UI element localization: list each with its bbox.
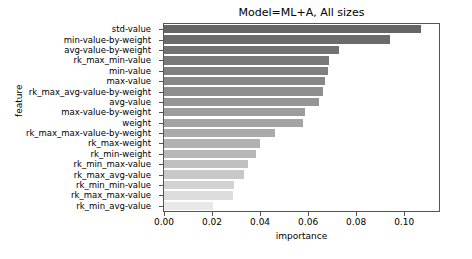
bar[interactable] xyxy=(164,46,339,54)
bar-row xyxy=(164,35,439,43)
y-tick-mark xyxy=(159,29,163,30)
bar[interactable] xyxy=(164,119,303,127)
bar-row xyxy=(164,56,439,64)
bar-row xyxy=(164,67,439,75)
bar-row xyxy=(164,139,439,147)
bar-row xyxy=(164,87,439,95)
y-tick-label: max-value xyxy=(106,76,151,86)
bar[interactable] xyxy=(164,25,421,33)
bar-row xyxy=(164,181,439,189)
y-tick-label: rk_max_max-value xyxy=(71,190,151,200)
x-tick-label: 0.00 xyxy=(154,217,174,227)
bar[interactable] xyxy=(164,191,233,199)
y-tick-mark xyxy=(159,195,163,196)
bar-row xyxy=(164,202,439,210)
y-tick-label: rk_min_min-value xyxy=(76,180,151,190)
x-tick-label: 0.06 xyxy=(298,217,318,227)
y-tick-mark xyxy=(159,60,163,61)
x-tick-mark xyxy=(308,212,309,216)
y-tick-label: rk_min_max-value xyxy=(73,159,151,169)
bar-row xyxy=(164,191,439,199)
x-tick-label: 0.02 xyxy=(202,217,222,227)
x-tick-label: 0.08 xyxy=(346,217,366,227)
bar-chart-figure: Model=ML+A, All sizes feature std-valuem… xyxy=(0,0,472,259)
x-axis-title: importance xyxy=(163,231,440,241)
bar[interactable] xyxy=(164,87,323,95)
y-tick-mark xyxy=(159,50,163,51)
y-tick-label: rk_max_avg-value-by-weight xyxy=(29,87,151,97)
bar[interactable] xyxy=(164,170,244,178)
bar[interactable] xyxy=(164,181,234,189)
chart-title: Model=ML+A, All sizes xyxy=(163,6,440,19)
bar[interactable] xyxy=(164,108,305,116)
y-tick-label: std-value xyxy=(112,24,151,34)
bar[interactable] xyxy=(164,160,248,168)
y-tick-mark xyxy=(159,185,163,186)
x-tick-mark xyxy=(260,212,261,216)
y-tick-label: rk_max-weight xyxy=(88,138,151,148)
bar[interactable] xyxy=(164,35,390,43)
bar-row xyxy=(164,108,439,116)
x-tick-mark xyxy=(356,212,357,216)
y-tick-label: avg-value xyxy=(109,97,151,107)
bar[interactable] xyxy=(164,139,260,147)
y-tick-label: rk_min_avg-value xyxy=(76,201,151,211)
y-tick-label: rk_max_avg-value xyxy=(74,170,151,180)
y-tick-mark xyxy=(159,81,163,82)
y-tick-mark xyxy=(159,71,163,72)
bar[interactable] xyxy=(164,129,275,137)
y-tick-label: rk_max_max-value-by-weight xyxy=(26,128,151,138)
x-tick-mark xyxy=(404,212,405,216)
bar-row xyxy=(164,46,439,54)
y-tick-label: rk_max_min-value xyxy=(73,55,151,65)
bar[interactable] xyxy=(164,150,256,158)
plot-area xyxy=(163,23,440,212)
bar-row xyxy=(164,170,439,178)
x-tick-mark xyxy=(212,212,213,216)
bar[interactable] xyxy=(164,67,328,75)
y-tick-mark xyxy=(159,154,163,155)
bar-row xyxy=(164,77,439,85)
y-axis-tick-labels: std-valuemin-value-by-weightavg-value-by… xyxy=(0,23,158,212)
bar-row xyxy=(164,119,439,127)
y-tick-label: min-value xyxy=(109,66,151,76)
bar[interactable] xyxy=(164,77,325,85)
bar[interactable] xyxy=(164,98,319,106)
bar-row xyxy=(164,98,439,106)
bar-row xyxy=(164,129,439,137)
bar[interactable] xyxy=(164,56,329,64)
y-tick-mark xyxy=(159,133,163,134)
bar-row xyxy=(164,150,439,158)
x-tick-mark xyxy=(164,212,165,216)
bar-row xyxy=(164,25,439,33)
y-tick-mark xyxy=(159,164,163,165)
y-tick-mark xyxy=(159,92,163,93)
x-tick-label: 0.04 xyxy=(250,217,270,227)
y-tick-mark xyxy=(159,123,163,124)
bar-row xyxy=(164,160,439,168)
y-tick-label: min-value-by-weight xyxy=(64,35,151,45)
y-tick-label: weight xyxy=(122,118,151,128)
bar[interactable] xyxy=(164,202,213,210)
y-tick-mark xyxy=(159,143,163,144)
bars-layer xyxy=(164,24,439,211)
y-tick-label: rk_min-weight xyxy=(91,149,151,159)
y-tick-mark xyxy=(159,206,163,207)
y-tick-mark xyxy=(159,40,163,41)
y-tick-label: avg-value-by-weight xyxy=(64,45,151,55)
y-tick-mark xyxy=(159,112,163,113)
y-tick-mark xyxy=(159,102,163,103)
y-tick-label: max-value-by-weight xyxy=(61,107,151,117)
x-tick-label: 0.10 xyxy=(394,217,414,227)
y-tick-mark xyxy=(159,175,163,176)
